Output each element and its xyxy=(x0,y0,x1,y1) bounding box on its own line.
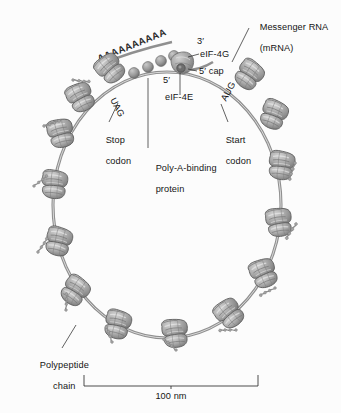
ribosome xyxy=(161,318,189,349)
start-codon-line1: Start xyxy=(226,135,246,145)
stop-codon-line1: Stop xyxy=(106,135,125,145)
messenger-rna-line2: (mRNA) xyxy=(260,43,294,53)
start-codon-line2: codon xyxy=(226,156,252,166)
scale-bar xyxy=(84,375,258,389)
ribosome xyxy=(40,169,68,200)
ribosome xyxy=(257,97,291,133)
polypeptide-line1: Polypeptide xyxy=(40,360,89,370)
figure-canvas: AAAAAAAAAA xyxy=(0,0,341,413)
stop-codon-line2: codon xyxy=(106,156,132,166)
ribosome xyxy=(267,149,296,181)
label-stop-codon: Stop codon xyxy=(95,125,131,177)
messenger-rna-line1: Messenger RNA xyxy=(260,22,329,32)
label-three-prime: 3′ xyxy=(197,36,204,46)
label-eif4e: eIF-4E xyxy=(165,92,193,102)
label-poly-a-binding-protein: Poly-A-binding protein xyxy=(145,153,217,205)
label-five-prime: 5′ xyxy=(163,75,170,85)
ribosome xyxy=(102,307,134,341)
label-messenger-rna: Messenger RNA (mRNA) xyxy=(249,12,328,64)
label-start-codon: Start codon xyxy=(215,125,251,177)
ribosome xyxy=(246,255,280,291)
ribosome xyxy=(57,272,94,310)
poly-a-binding-line1: Poly-A-binding xyxy=(156,163,217,173)
label-scale-bar: 100 nm xyxy=(121,391,221,401)
ribosome xyxy=(63,79,98,116)
poly-a-binding-line2: protein xyxy=(156,184,185,194)
polypeptide-line2: chain xyxy=(53,381,75,391)
label-five-prime-cap: 5′ cap xyxy=(199,66,224,76)
ribosome xyxy=(43,224,75,258)
label-eif4g: eIF-4G xyxy=(200,49,229,59)
label-polypeptide-chain: Polypeptide chain xyxy=(9,350,109,402)
polypeptide-chains xyxy=(32,71,303,354)
